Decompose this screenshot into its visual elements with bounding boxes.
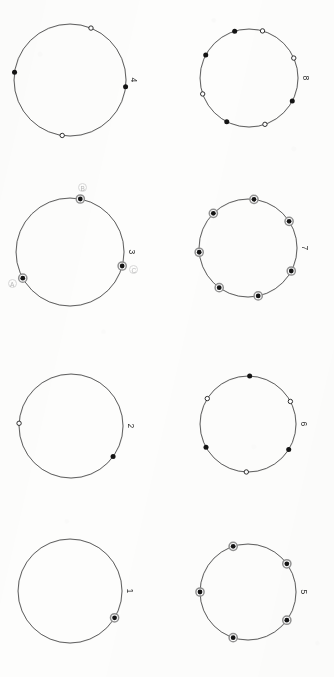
point-marker-ringed <box>110 614 118 622</box>
figure-grid: 48BAC372615 <box>0 0 334 677</box>
point-marker-open <box>263 122 267 126</box>
point-marker-ringed <box>254 292 262 300</box>
point-marker-ringed <box>76 195 84 203</box>
point-marker-ringed <box>283 616 291 624</box>
point-marker-filled <box>290 99 295 104</box>
point-marker-filled <box>203 52 208 57</box>
point-marker-open <box>200 92 204 96</box>
point-marker-ringed <box>285 217 293 225</box>
point-marker-filled <box>111 454 116 459</box>
figure-cell-8: 8 <box>167 0 334 170</box>
point-marker-filled <box>286 447 291 452</box>
circle-diagram-7 <box>167 170 334 340</box>
figure-cell-3: BAC3 <box>0 170 167 340</box>
point-marker-open <box>89 26 93 30</box>
point-marker-filled <box>224 119 229 124</box>
figure-number-3: 3 <box>127 250 137 255</box>
point-marker-ringed <box>19 274 27 282</box>
point-marker-ringed <box>229 634 237 642</box>
point-marker-ringed <box>283 560 291 568</box>
figure-number-7: 7 <box>300 246 310 251</box>
figure-cell-4: 4 <box>0 0 167 170</box>
point-marker-open <box>205 396 209 400</box>
figure-cell-7: 7 <box>167 170 334 340</box>
figure-cell-5: 5 <box>167 510 334 677</box>
scanned-sheet: 48BAC372615 <box>0 0 334 677</box>
point-marker-filled <box>204 445 209 450</box>
point-marker-filled <box>123 84 128 89</box>
point-marker-filled <box>12 70 17 75</box>
figure-cell-1: 1 <box>0 510 167 677</box>
point-marker-filled <box>232 29 237 34</box>
point-marker-ringed <box>118 262 126 270</box>
circle-diagram-1 <box>0 510 167 677</box>
point-marker-ringed <box>215 284 223 292</box>
point-marker-ringed <box>287 267 295 275</box>
circle-diagram-8 <box>167 0 334 170</box>
circle-diagram-4 <box>0 0 167 170</box>
point-marker-ringed <box>196 588 204 596</box>
figure-number-1: 1 <box>125 589 135 594</box>
point-marker-filled <box>247 374 252 379</box>
point-marker-ringed <box>229 542 237 550</box>
figure-number-8: 8 <box>301 76 311 81</box>
figure-number-6: 6 <box>299 422 309 427</box>
point-marker-ringed <box>195 248 203 256</box>
figure-number-2: 2 <box>126 424 136 429</box>
point-marker-open <box>17 421 21 425</box>
figure-number-4: 4 <box>129 78 139 83</box>
point-marker-open <box>244 470 248 474</box>
point-marker-ringed <box>209 209 217 217</box>
circle-diagram-2 <box>0 340 167 510</box>
point-marker-ringed <box>250 195 258 203</box>
point-marker-open <box>60 133 64 137</box>
figure-cell-2: 2 <box>0 340 167 510</box>
figure-cell-6: 6 <box>167 340 334 510</box>
figure-number-5: 5 <box>299 590 309 595</box>
circle-diagram-3 <box>0 170 167 340</box>
point-marker-open <box>292 56 296 60</box>
point-marker-open <box>288 399 292 403</box>
point-marker-open <box>260 29 264 33</box>
